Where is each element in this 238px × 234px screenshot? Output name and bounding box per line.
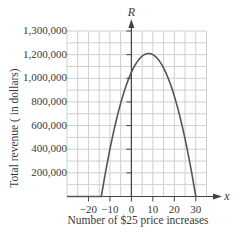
y-tick-label: 1,000,000 <box>23 71 67 83</box>
x-axis-name: x <box>224 188 229 203</box>
y-axis-name: R <box>128 5 135 20</box>
grid-lines <box>67 31 207 197</box>
y-tick-label: 200,000 <box>31 166 67 178</box>
y-tick-label: 1,300,000 <box>23 24 67 36</box>
x-axis-label: Number of $25 price increases <box>67 214 208 226</box>
y-tick-label: 600,000 <box>31 119 67 131</box>
y-axis-label: Total revenue ( in dollars) <box>8 68 20 187</box>
y-tick-label: 1,200,000 <box>23 48 67 60</box>
y-tick-label: 800,000 <box>31 95 67 107</box>
y-tick-label: 400,000 <box>31 142 67 154</box>
